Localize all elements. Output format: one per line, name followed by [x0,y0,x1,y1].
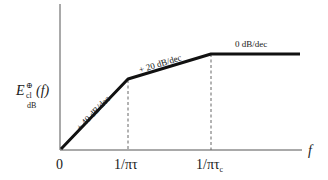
x-tick-2-label: 1/πτc [196,157,224,174]
slope-label-0: 0 dB/dec [235,39,267,49]
slope-label-40: + 40 dB/dec [74,94,112,133]
x-tick-1-label: 1/πτ [114,157,138,172]
y-axis-label-subscript: cl [26,91,33,100]
bode-diagram: + 40 dB/dec + 20 dB/dec 0 dB/dec E ⊕ cl … [0,0,328,180]
slope-label-20: + 20 dB/dec [138,52,183,74]
y-axis-label-superscript: ⊕ [26,81,33,90]
y-axis-label: E [15,83,25,98]
y-axis-label-argument: (f) [36,83,50,99]
origin-label: 0 [56,157,63,172]
y-axis-unit: dB [27,101,36,110]
x-axis-label: f [308,143,314,158]
